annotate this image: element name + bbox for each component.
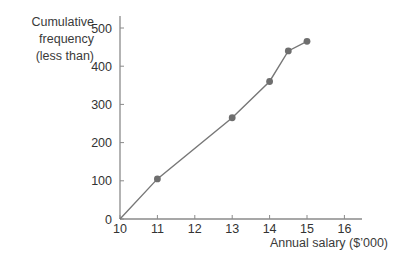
x-tick-label: 10 [113, 222, 127, 236]
y-tick-label: 200 [91, 136, 112, 150]
axes [120, 16, 362, 219]
data-point-marker [304, 38, 311, 45]
data-point-marker [229, 114, 236, 121]
series-line [120, 41, 307, 219]
data-point-marker [266, 78, 273, 85]
y-tick-label: 100 [91, 174, 112, 188]
y-tick-label: 400 [91, 60, 112, 74]
y-axis-label-line-2: frequency [0, 31, 94, 48]
y-tick-label: 0 [105, 213, 112, 227]
x-tick-label: 16 [337, 222, 351, 236]
y-tick-label: 300 [91, 98, 112, 112]
x-tick-label: 12 [188, 222, 202, 236]
ticks: 101112131415160100200300400500 [91, 22, 351, 237]
y-axis-label: Cumulative frequency (less than) [0, 14, 94, 65]
y-axis-label-line-3: (less than) [0, 48, 94, 65]
data-series [120, 38, 310, 219]
x-tick-label: 13 [225, 222, 239, 236]
x-axis-label: Annual salary ($’000) [270, 236, 388, 250]
x-tick-label: 11 [151, 222, 164, 236]
x-tick-label: 15 [300, 222, 314, 236]
x-tick-label: 14 [263, 222, 277, 236]
data-point-marker [154, 175, 161, 182]
data-point-marker [285, 48, 292, 55]
y-tick-label: 500 [91, 22, 112, 36]
y-axis-label-line-1: Cumulative [0, 14, 94, 31]
